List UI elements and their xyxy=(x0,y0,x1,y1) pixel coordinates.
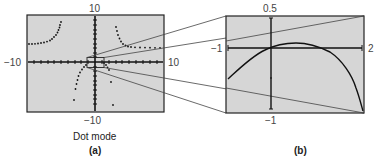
calculator-screen-a xyxy=(27,15,164,112)
panel-a-xmin-label: −10 xyxy=(4,58,21,68)
panel-a-caption: (a) xyxy=(89,146,101,156)
panel-b-xmax-label: 2 xyxy=(368,44,374,54)
panel-b-ymax-label: 0.5 xyxy=(263,4,277,14)
figure-canvas xyxy=(0,0,374,162)
panel-a-mode-label: Dot mode xyxy=(73,132,116,142)
panel-a-xmax-label: 10 xyxy=(168,58,179,68)
panel-b-xmin-label: −1 xyxy=(211,44,222,54)
panel-b-caption: (b) xyxy=(294,146,307,156)
panel-b-ymin-label: −1 xyxy=(265,116,276,126)
calculator-screen-b xyxy=(226,16,364,113)
panel-a-ymax-label: 10 xyxy=(89,4,100,14)
panel-a-ymin-label: −10 xyxy=(84,116,101,126)
